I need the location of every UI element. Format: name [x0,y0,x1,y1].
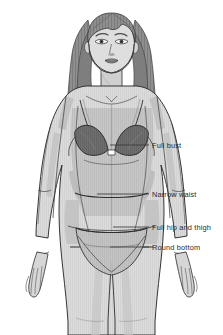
body [36,86,187,335]
callout-label-full-bust: Full bust [152,141,181,150]
body-measurement-diagram: Full bust Narrow waist Full hip and thig… [0,0,223,335]
eye-left [95,39,108,44]
mouth [105,59,118,63]
hand-right [175,252,197,297]
callout-label-round-bottom: Round bottom [152,243,200,252]
figure-illustration [0,0,223,335]
callout-label-full-hip-and-thigh: Full hip and thigh [152,223,211,232]
callout-label-narrow-waist: Narrow waist [152,190,197,199]
head [85,13,139,73]
eye-right [115,39,128,44]
hand-left [26,252,48,297]
